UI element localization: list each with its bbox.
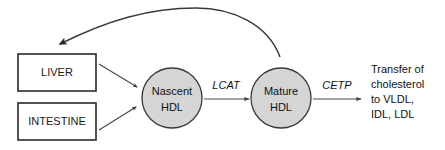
- cetp-enzyme-label: CETP: [322, 79, 352, 91]
- outcome-line-2: cholesterol: [371, 78, 424, 90]
- liver-to-nascent-arrow: [99, 64, 137, 87]
- lcat-enzyme-label: LCAT: [212, 79, 241, 91]
- mature-hdl-label-line2: HDL: [270, 101, 292, 113]
- mature-hdl-circle: [251, 68, 311, 128]
- outcome-line-4: IDL, LDL: [371, 108, 414, 120]
- mature-hdl-label-line1: Mature: [264, 85, 298, 97]
- nascent-hdl-label-line2: HDL: [161, 101, 183, 113]
- diagram-canvas: LIVER INTESTINE Nascent HDL LCAT Mature …: [0, 0, 445, 150]
- nascent-hdl-label-line1: Nascent: [152, 85, 192, 97]
- nascent-hdl-circle: [142, 68, 202, 128]
- outcome-line-1: Transfer of: [371, 63, 425, 75]
- liver-box-label: LIVER: [41, 66, 73, 78]
- feedback-arrow-to-liver: [60, 8, 280, 57]
- outcome-line-3: to VLDL,: [371, 93, 414, 105]
- hdl-pathway-diagram: LIVER INTESTINE Nascent HDL LCAT Mature …: [0, 0, 445, 150]
- intestine-box-label: INTESTINE: [28, 115, 85, 127]
- intestine-to-nascent-arrow: [99, 107, 136, 130]
